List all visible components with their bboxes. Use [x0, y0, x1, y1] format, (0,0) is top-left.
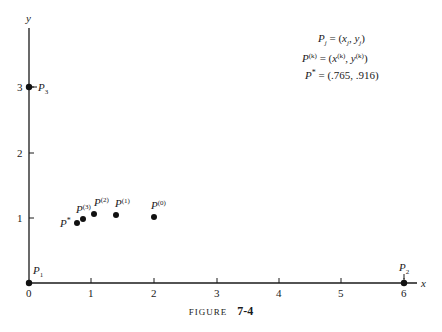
legend-line-1: Pj = (xj, yj)	[317, 32, 365, 47]
point-p1	[26, 280, 32, 286]
x-tick-1: 1	[88, 287, 94, 299]
point-p3	[26, 84, 32, 90]
x-tick-4: 4	[276, 287, 282, 299]
y-tick-3: 3	[17, 81, 23, 93]
legend-line-2: P(k) = (x(k), y(k))	[301, 52, 368, 65]
point-p-star	[74, 220, 80, 226]
x-tick-5: 5	[338, 287, 344, 299]
label-p-star: P*	[59, 216, 71, 229]
x-tick-0: 0	[26, 287, 32, 299]
x-tick-3: 3	[214, 287, 220, 299]
label-p3: P3	[37, 81, 49, 96]
figure-caption: FIGURE7-4	[0, 301, 442, 319]
y-axis-label: y	[25, 12, 31, 24]
x-tick-6: 6	[401, 287, 407, 299]
point-p2	[401, 280, 407, 286]
label-p0-iter: P(0)	[150, 199, 167, 211]
figure-plot: y x 0 1 2 3 4 5 6 1 2 3 P1 P2 P3 P(0)	[0, 0, 442, 332]
y-ticks	[29, 87, 34, 218]
label-p3-iter: P(3)	[75, 203, 92, 215]
label-p2-iter: P(2)	[93, 196, 110, 208]
point-p3-iter	[80, 216, 86, 222]
x-tick-labels: 0 1 2 3 4 5 6	[26, 287, 407, 299]
x-axis-label: x	[420, 277, 426, 289]
label-p1: P1	[32, 264, 44, 279]
label-p2: P2	[398, 261, 410, 276]
y-tick-labels: 1 2 3	[17, 81, 23, 224]
x-ticks	[91, 278, 404, 283]
label-p1-iter: P(1)	[114, 197, 131, 209]
legend-line-3: P* = (.765, .916)	[304, 68, 379, 82]
legend: Pj = (xj, yj) P(k) = (x(k), y(k)) P* = (…	[301, 32, 379, 82]
point-p1-iter	[113, 212, 119, 218]
point-p2-iter	[91, 211, 97, 217]
point-p0-iter	[151, 214, 157, 220]
caption-word: FIGURE	[189, 307, 228, 317]
caption-number: 7-4	[237, 304, 253, 318]
y-tick-2: 2	[17, 147, 23, 159]
y-tick-1: 1	[17, 212, 23, 224]
x-tick-2: 2	[151, 287, 157, 299]
